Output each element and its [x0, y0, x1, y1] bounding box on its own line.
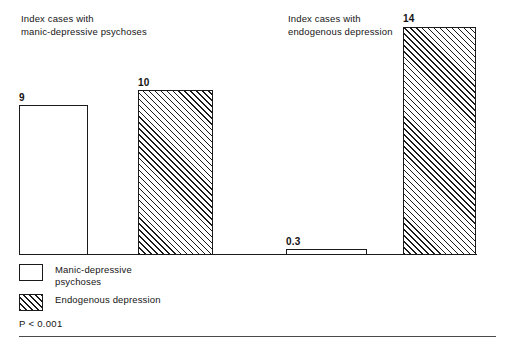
open-square-swatch-icon [19, 264, 43, 281]
legend-item-label: Manic-depressive psychoses [55, 263, 132, 287]
bar-endogenous-depression-group1 [138, 90, 213, 255]
hatched-square-swatch-icon [19, 294, 43, 311]
bottom-divider [19, 336, 496, 337]
bar-value-label: 9 [19, 92, 25, 103]
legend-item-manic-depressive: Manic-depressive psychoses [19, 263, 279, 287]
legend-item-label: Endogenous depression [55, 293, 161, 306]
legend-item-endogenous-depression: Endogenous depression [19, 293, 279, 311]
bar-value-label: 14 [403, 13, 415, 24]
baseline-axis [19, 254, 477, 255]
bar-value-label: 0.3 [286, 236, 301, 247]
figure-chart: Index cases with manic-depressive psycho… [0, 0, 506, 346]
significance-note: P < 0.001 [19, 318, 62, 329]
bar-manic-depressive-group1 [19, 105, 88, 255]
legend: Manic-depressive psychoses Endogenous de… [19, 263, 279, 317]
bar-endogenous-depression-group2 [403, 27, 476, 255]
plot-area: 9 10 0.3 14 [0, 0, 506, 260]
bar-value-label: 10 [138, 77, 150, 88]
